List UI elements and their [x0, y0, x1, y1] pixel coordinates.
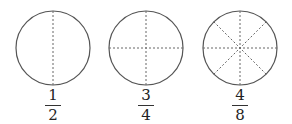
- circle-quarters: [109, 11, 183, 85]
- fraction-label-1: 1 2: [38, 88, 68, 123]
- fraction-label-2: 3 4: [131, 88, 161, 123]
- denominator: 8: [225, 108, 255, 123]
- fraction-label-3: 4 8: [225, 88, 255, 123]
- circle-halves: [16, 11, 90, 85]
- numerator: 3: [131, 88, 161, 103]
- denominator: 2: [38, 108, 68, 123]
- circle-eighths: [203, 11, 277, 85]
- numerator: 4: [225, 88, 255, 103]
- denominator: 4: [131, 108, 161, 123]
- numerator: 1: [38, 88, 68, 103]
